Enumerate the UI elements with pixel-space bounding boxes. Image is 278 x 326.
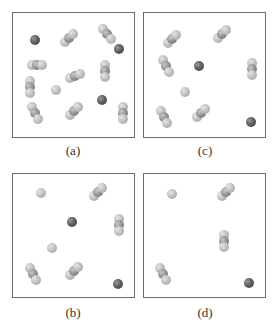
dark-atom xyxy=(114,44,124,54)
light-atom xyxy=(25,88,35,98)
light-atom xyxy=(180,87,190,97)
panel-c xyxy=(143,12,266,138)
light-atom xyxy=(167,189,177,199)
panel-label-d: (d) xyxy=(185,305,225,321)
light-atom xyxy=(31,275,41,285)
dark-atom xyxy=(97,95,107,105)
light-atom xyxy=(73,102,83,112)
light-atom xyxy=(73,262,83,272)
dark-atom xyxy=(113,279,123,289)
light-atom xyxy=(68,29,78,39)
panel-label-a: (a) xyxy=(53,143,93,159)
light-atom xyxy=(33,114,43,124)
panel-b xyxy=(12,173,135,298)
light-atom xyxy=(51,85,61,95)
light-atom xyxy=(200,104,210,114)
dark-atom xyxy=(246,117,256,127)
light-atom xyxy=(225,183,235,193)
light-atom xyxy=(106,34,116,44)
light-atom xyxy=(221,25,231,35)
light-atom xyxy=(37,60,47,70)
panel-label-c: (c) xyxy=(185,143,225,159)
dark-atom xyxy=(194,61,204,71)
dark-atom xyxy=(30,35,40,45)
light-atom xyxy=(247,70,257,80)
panel-d xyxy=(143,173,266,298)
light-atom xyxy=(36,188,46,198)
dark-atom xyxy=(244,278,254,288)
dark-atom xyxy=(67,217,77,227)
light-atom xyxy=(118,114,128,124)
light-atom xyxy=(161,275,171,285)
panel-label-b: (b) xyxy=(53,305,93,321)
light-atom xyxy=(97,183,107,193)
light-atom xyxy=(162,118,172,128)
light-atom xyxy=(47,243,57,253)
light-atom xyxy=(219,242,229,252)
light-atom xyxy=(164,67,174,77)
light-atom xyxy=(171,30,181,40)
light-atom xyxy=(75,69,85,79)
panel-a xyxy=(12,12,135,138)
light-atom xyxy=(100,72,110,82)
light-atom xyxy=(114,226,124,236)
